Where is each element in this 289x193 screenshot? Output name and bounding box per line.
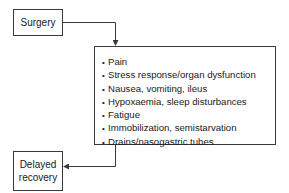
delayed-recovery-node: Delayed recovery bbox=[13, 151, 63, 191]
delayed-label-line2: recovery bbox=[19, 171, 57, 184]
factor-item: •Immobilization, semistarvation bbox=[102, 122, 275, 135]
factor-item: •Drains/nasogastric tubes bbox=[102, 136, 275, 149]
surgery-to-factors-arrow bbox=[63, 23, 116, 46]
factor-item: •Pain bbox=[102, 56, 275, 69]
factor-item: •Hypoxaemia, sleep disturbances bbox=[102, 96, 275, 109]
factor-item: •Fatigue bbox=[102, 109, 275, 122]
delayed-label-line1: Delayed bbox=[20, 158, 57, 171]
surgery-node: Surgery bbox=[13, 9, 63, 36]
factor-item: •Stress response/organ dysfunction bbox=[102, 69, 275, 82]
factor-item: •Nausea, vomiting, ileus bbox=[102, 83, 275, 96]
factors-node: •Pain •Stress response/organ dysfunction… bbox=[94, 46, 276, 145]
factors-list: •Pain •Stress response/organ dysfunction… bbox=[102, 56, 275, 149]
surgery-label: Surgery bbox=[20, 17, 55, 28]
